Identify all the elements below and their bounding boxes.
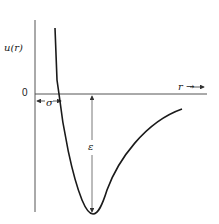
potential-curve <box>55 28 182 214</box>
origin-label: 0 <box>22 87 28 98</box>
epsilon-label: ε <box>88 141 93 152</box>
y-axis-label: u(r) <box>4 42 23 53</box>
sigma-label: σ <box>46 97 53 108</box>
x-axis-label: r → <box>178 81 194 92</box>
potential-diagram <box>0 0 219 224</box>
